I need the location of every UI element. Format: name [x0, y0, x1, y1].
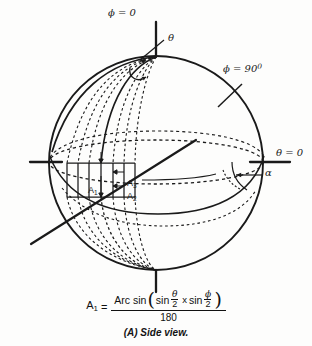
- label-a1-subscript: 1: [94, 189, 98, 196]
- label-phi-zero: ϕ = 0: [108, 8, 136, 18]
- label-a2: A2: [127, 192, 137, 202]
- label-alpha: α: [265, 168, 272, 178]
- formula-phi-denominator: 2: [205, 300, 210, 309]
- label-phi-ninety-degree: 0: [257, 62, 262, 71]
- equator-ellipse: [49, 140, 263, 184]
- meridian-lower-7: [135, 197, 156, 270]
- formula-times: x: [182, 294, 187, 305]
- formula-theta-denominator: 2: [172, 300, 177, 309]
- formula-block: A1 = Arc sin ( sin θ 2 x sin ϕ 2 ): [0, 290, 312, 323]
- figure-caption: (A) Side view.: [0, 327, 312, 338]
- alpha-arc-inner: [223, 170, 240, 189]
- label-phi-ninety-text: ϕ = 90: [223, 63, 257, 74]
- label-phi-ninety: ϕ = 900: [223, 63, 262, 74]
- formula-numerator: Arc sin ( sin θ 2 x sin ϕ 2 ): [111, 290, 226, 310]
- formula-sin-phi: sin: [189, 294, 202, 306]
- formula-phi-numerator: ϕ: [205, 290, 211, 299]
- formula-denominator: 180: [160, 311, 177, 323]
- formula-fraction: Arc sin ( sin θ 2 x sin ϕ 2 ) 180: [111, 290, 226, 323]
- formula-phi-over-two: ϕ 2: [204, 290, 211, 309]
- formula-paren-open: (: [147, 293, 154, 307]
- a3-leader: [142, 174, 216, 180]
- meridian-upper-7: [135, 57, 156, 163]
- formula-equals: =: [101, 301, 107, 313]
- alpha-arc-group: [223, 162, 262, 190]
- formula-theta-numerator: θ: [172, 290, 177, 299]
- formula-sin-theta: sin: [156, 294, 169, 306]
- meridian-upper-5: [113, 57, 156, 163]
- label-a1: A1: [88, 186, 98, 196]
- label-theta-top: θ: [168, 33, 174, 43]
- meridian-family-upper: [52, 57, 156, 163]
- label-theta-zero: θ = 0: [276, 148, 303, 158]
- meridian-lower-6: [124, 197, 156, 270]
- label-a2-subscript: 2: [133, 195, 137, 202]
- label-a3: A3: [127, 179, 137, 189]
- a-label-leaders: [142, 174, 216, 180]
- figure-side-view: ϕ = 0 θ ϕ = 900 θ = 0 α A1 A3 A2 A1 = Ar…: [0, 0, 312, 346]
- formula-lhs-subscript: 1: [93, 305, 97, 314]
- patch-measure-arrows: [99, 152, 124, 197]
- label-a3-subscript: 3: [133, 182, 137, 189]
- formula-arcsin: Arc sin: [114, 294, 146, 306]
- formula-lhs: A1: [86, 299, 98, 313]
- formula-paren-close: ): [214, 293, 221, 307]
- formula-theta-over-two: θ 2: [171, 290, 178, 309]
